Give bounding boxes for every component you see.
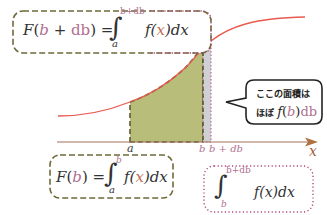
strip-b-to-b-plus-db: [203, 45, 211, 142]
label-b: b: [199, 143, 205, 154]
lower-limit-strip: b: [221, 199, 227, 209]
integrand-bottom: f(x)dx: [124, 168, 168, 186]
label-b-plus-db: b + db: [209, 143, 243, 154]
callout-line-2: ほぼ f(b)db: [256, 104, 317, 119]
lower-limit-bottom: a: [109, 184, 115, 195]
upper-limit-top: b+db: [120, 6, 145, 16]
formula-top: F(b + db) =: [23, 21, 113, 39]
label-a: a: [127, 142, 134, 155]
label-x: x: [309, 143, 317, 159]
upper-limit-bottom: b: [116, 155, 122, 165]
callout-line-1: ここの面積は: [256, 87, 310, 100]
lower-limit-top: a: [112, 38, 118, 49]
upper-limit-strip: b+db: [226, 165, 251, 175]
integrand-strip: f(x)dx: [254, 184, 295, 200]
integrand-top: f(x)dx: [145, 21, 189, 39]
formula-bottom: F(b) =: [56, 168, 105, 186]
